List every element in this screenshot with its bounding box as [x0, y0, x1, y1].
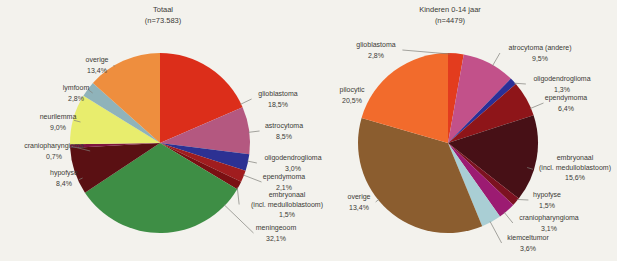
slice-label-kinderen-0-14-kiemceltumor-line1: kiemceltumor [507, 234, 549, 241]
slice-label-kinderen-0-14-overige-line2: 13,4% [349, 204, 369, 211]
slice-label-totaal-embryonaal-line1: embryonaal [269, 191, 306, 199]
leader-line-kinderen-0-14-ependymoma [530, 103, 543, 109]
slice-label-totaal-neurilemma-line1: neurilemma [40, 113, 77, 120]
slice-label-kinderen-0-14-glioblastoma-line2: 2,8% [368, 52, 384, 59]
leader-line-totaal-glioblastoma [240, 99, 251, 104]
slice-label-totaal-craniopharyngioma-line1: craniopharyngioma [24, 142, 84, 150]
slice-label-totaal-neurilemma-line2: 9,0% [50, 124, 66, 131]
slice-label-kinderen-0-14-pilocytic-line1: pilocytic [340, 86, 365, 94]
slice-label-kinderen-0-14-glioblastoma-line1: glioblastoma [356, 41, 395, 49]
slice-label-totaal-overige-line1: overige [86, 56, 109, 64]
slice-label-totaal-embryonaal-line2: (incl. medulloblastoom) [251, 201, 323, 209]
slice-label-totaal-hypofyse-line1: hypofyse [50, 169, 78, 177]
leader-line-totaal-astrocytoma [248, 131, 259, 132]
leader-line-totaal-embryonaal [237, 187, 239, 204]
slice-label-totaal-craniopharyngioma-line2: 0,7% [46, 153, 62, 160]
slice-label-totaal-astrocytoma-line1: astrocytoma [265, 122, 303, 130]
slice-label-totaal-meningeoom-line1: meningeoom [256, 224, 297, 232]
leader-line-kinderen-0-14-overige [376, 199, 379, 202]
slice-label-totaal-ependymoma-line1: ependymoma [263, 173, 306, 181]
leader-line-kinderen-0-14-craniopharyngioma [504, 212, 513, 223]
leader-line-kinderen-0-14-atrocytoma-andere [492, 53, 499, 66]
slice-label-kinderen-0-14-overige-line1: overige [348, 193, 371, 201]
slice-label-totaal-lymfoom-line2: 2,8% [68, 95, 84, 102]
slice-label-kinderen-0-14-hypofyse-line1: hypofyse [533, 191, 561, 199]
slice-label-totaal-lymfoom-line1: lymfoom [63, 84, 90, 92]
slice-label-kinderen-0-14-kiemceltumor-line2: 3,6% [520, 245, 536, 252]
slice-label-kinderen-0-14-embryonaal-line3: 15,6% [565, 174, 585, 181]
pie-charts-svg: glioblastoma18,5%astrocytoma8,5%oligoden… [0, 0, 617, 261]
leader-line-totaal-oligodendroglioma [247, 161, 257, 163]
figure-two-pie-charts: Totaal (n=73.583) Kinderen 0-14 jaar (n=… [0, 0, 617, 261]
slice-label-totaal-ependymoma-line2: 2,1% [276, 184, 292, 191]
leader-line-totaal-meningeoom [224, 205, 253, 233]
slice-label-totaal-astrocytoma-line2: 8,5% [276, 133, 292, 140]
slice-label-kinderen-0-14-oligodendroglioma-line1: oligodendroglioma [533, 75, 590, 83]
pie-chart-kinderen-0-14: glioblastoma2,8%atrocytoma (andere)9,5%o… [340, 41, 611, 252]
slice-label-totaal-embryonaal-line3: 1,5% [279, 211, 295, 218]
slice-label-totaal-overige-line2: 13,4% [87, 67, 107, 74]
slice-label-kinderen-0-14-embryonaal-line2: (incl. medulloblastoom) [539, 164, 611, 172]
slice-label-kinderen-0-14-hypofyse-line2: 1,5% [539, 202, 555, 209]
slice-label-kinderen-0-14-ependymoma-line2: 6,4% [558, 105, 574, 112]
slice-label-kinderen-0-14-craniopharyngioma-line2: 3,1% [541, 225, 557, 232]
slice-label-kinderen-0-14-pilocytic-line2: 20,5% [342, 97, 362, 104]
slice-label-kinderen-0-14-atrocytoma-andere-line1: atrocytoma (andere) [508, 44, 571, 52]
leader-line-totaal-ependymoma [243, 175, 261, 182]
slice-label-totaal-oligodendroglioma-line1: oligodendroglioma [264, 154, 321, 162]
slice-label-totaal-oligodendroglioma-line2: 3,0% [285, 165, 301, 172]
slice-label-kinderen-0-14-craniopharyngioma-line1: craniopharyngioma [519, 214, 579, 222]
slice-label-kinderen-0-14-embryonaal-line1: embryonaal [557, 154, 594, 162]
slice-label-totaal-glioblastoma-line1: glioblastoma [258, 90, 297, 98]
slice-label-totaal-meningeoom-line2: 32,1% [266, 235, 286, 242]
slice-label-totaal-glioblastoma-line2: 18,5% [268, 101, 288, 108]
leader-line-kinderen-0-14-kiemceltumor [490, 221, 502, 243]
leader-line-kinderen-0-14-glioblastoma [402, 50, 449, 54]
slice-label-totaal-hypofyse-line2: 8,4% [56, 180, 72, 187]
slice-label-kinderen-0-14-atrocytoma-andere-line2: 9,5% [532, 55, 548, 62]
leader-line-kinderen-0-14-hypofyse [517, 199, 529, 200]
slice-label-kinderen-0-14-oligodendroglioma-line2: 1,3% [554, 86, 570, 93]
pie-chart-totaal: glioblastoma18,5%astrocytoma8,5%oligoden… [24, 53, 323, 242]
slice-label-kinderen-0-14-ependymoma-line1: ependymoma [545, 94, 588, 102]
